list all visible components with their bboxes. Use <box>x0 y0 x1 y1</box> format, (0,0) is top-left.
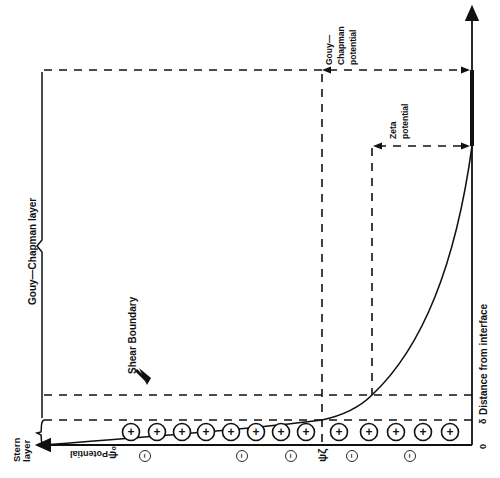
svg-text:+: + <box>392 425 399 439</box>
svg-text:+: + <box>127 425 134 439</box>
svg-text:−: − <box>347 454 356 459</box>
stern-layer-label-line2: layer <box>21 440 32 462</box>
gc-potential-arrow-right-icon <box>461 67 470 74</box>
positive-ion: + <box>298 424 315 441</box>
svg-text:−: − <box>286 454 295 459</box>
svg-text:+: + <box>153 425 160 439</box>
svg-text:−: − <box>140 454 149 459</box>
y-axis-label: Distance from interface <box>478 303 489 415</box>
svg-text:−: − <box>405 454 414 459</box>
gc-potential-label-line1: Gouy— <box>324 34 334 65</box>
gc-potential-label-line2: Chapman <box>336 26 346 65</box>
svg-text:+: + <box>252 425 259 439</box>
svg-text:+: + <box>335 425 342 439</box>
diagram-canvas: +++++++++++++−−−−− Distance from interfa… <box>0 0 500 478</box>
positive-ion: + <box>149 424 166 441</box>
stern-layer-label: Stern layer <box>11 438 32 462</box>
gc-layer-label: Gouy—Chapman layer <box>27 198 38 305</box>
gc-potential-label: Gouy— Chapman potential <box>324 26 358 65</box>
svg-text:+: + <box>227 425 234 439</box>
positive-ion: + <box>223 424 240 441</box>
psi-0-label: ψ₀ <box>106 446 118 459</box>
positive-ion: + <box>273 424 290 441</box>
negative-ion: − <box>140 451 151 462</box>
gc-potential-label-line3: potential <box>348 30 358 65</box>
zeta-potential-label-line2: potential <box>400 104 410 139</box>
zeta-potential-label: Zeta potential <box>388 104 410 139</box>
svg-text:−: − <box>237 454 246 459</box>
positive-ion: + <box>123 424 140 441</box>
gc-potential-arrow-left-icon <box>322 67 331 74</box>
positive-ion: + <box>388 424 405 441</box>
tick-zero-label: 0 <box>478 444 488 449</box>
shear-boundary-label: Shear Boundary <box>127 296 138 374</box>
svg-text:+: + <box>277 425 284 439</box>
svg-text:+: + <box>202 425 209 439</box>
positive-ion: + <box>248 424 265 441</box>
svg-text:+: + <box>419 425 426 439</box>
positive-ion: + <box>361 424 378 441</box>
positive-ion: + <box>415 424 432 441</box>
psi-zeta-label: ψζ <box>316 449 329 462</box>
positive-ion: + <box>442 424 459 441</box>
negative-ion: − <box>237 451 248 462</box>
double-layer-diagram: +++++++++++++−−−−− Distance from interfa… <box>0 0 500 478</box>
negative-ion: − <box>347 451 358 462</box>
tick-delta-label: δ <box>478 418 488 424</box>
positive-ion: + <box>331 424 348 441</box>
svg-text:+: + <box>446 425 453 439</box>
x-axis-label: Potential <box>70 449 108 459</box>
zeta-arrow-right-icon <box>461 143 470 150</box>
zeta-arrow-left-icon <box>373 143 382 150</box>
svg-text:+: + <box>178 425 185 439</box>
ions-group: +++++++++++++−−−−− <box>123 424 459 462</box>
negative-ion: − <box>286 451 297 462</box>
svg-text:+: + <box>302 425 309 439</box>
zeta-potential-label-line1: Zeta <box>388 121 398 139</box>
stern-layer-brace <box>37 420 44 445</box>
positive-ion: + <box>198 424 215 441</box>
potential-curve <box>42 146 472 445</box>
svg-text:+: + <box>365 425 372 439</box>
negative-ion: − <box>405 451 416 462</box>
positive-ion: + <box>174 424 191 441</box>
